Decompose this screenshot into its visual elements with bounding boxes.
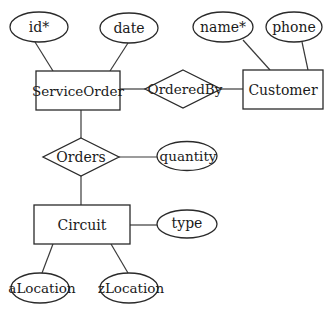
edge-circuit-zlocation [111, 244, 128, 273]
attribute-label: type [172, 215, 203, 231]
relationship-orderedby[interactable]: OrderedBy [145, 70, 223, 108]
attribute-alocation[interactable]: aLocation [8, 273, 76, 303]
er-diagram: id* date name* phone quantity type aLoca… [0, 0, 326, 312]
entity-label: ServiceOrder [32, 83, 124, 99]
relationship-label: OrderedBy [148, 81, 223, 97]
attribute-zlocation[interactable]: zLocation [98, 273, 165, 303]
relationship-orders[interactable]: Orders [43, 138, 119, 176]
entity-serviceorder[interactable]: ServiceOrder [32, 71, 124, 110]
attribute-label: id* [29, 19, 49, 35]
attribute-date[interactable]: date [100, 13, 158, 43]
attribute-phone[interactable]: phone [266, 12, 322, 42]
attribute-label: zLocation [98, 280, 165, 296]
edge-phone-customer [302, 42, 308, 70]
edge-date-serviceorder [110, 43, 128, 71]
attribute-type[interactable]: type [157, 210, 217, 238]
relationship-label: Orders [56, 149, 105, 165]
entity-label: Circuit [58, 217, 107, 233]
attribute-label: quantity [160, 148, 217, 164]
entity-circuit[interactable]: Circuit [34, 205, 130, 244]
attribute-label: phone [272, 19, 316, 35]
attribute-label: aLocation [8, 280, 76, 296]
attribute-name[interactable]: name* [193, 12, 253, 42]
edge-name-customer [243, 40, 270, 70]
edge-id-serviceorder [35, 42, 53, 71]
attribute-quantity[interactable]: quantity [157, 142, 217, 171]
attribute-id[interactable]: id* [10, 12, 68, 42]
edge-circuit-alocation [42, 244, 53, 273]
entity-customer[interactable]: Customer [243, 70, 323, 109]
entity-label: Customer [248, 82, 318, 98]
attribute-label: name* [200, 19, 246, 35]
attribute-label: date [113, 20, 144, 36]
